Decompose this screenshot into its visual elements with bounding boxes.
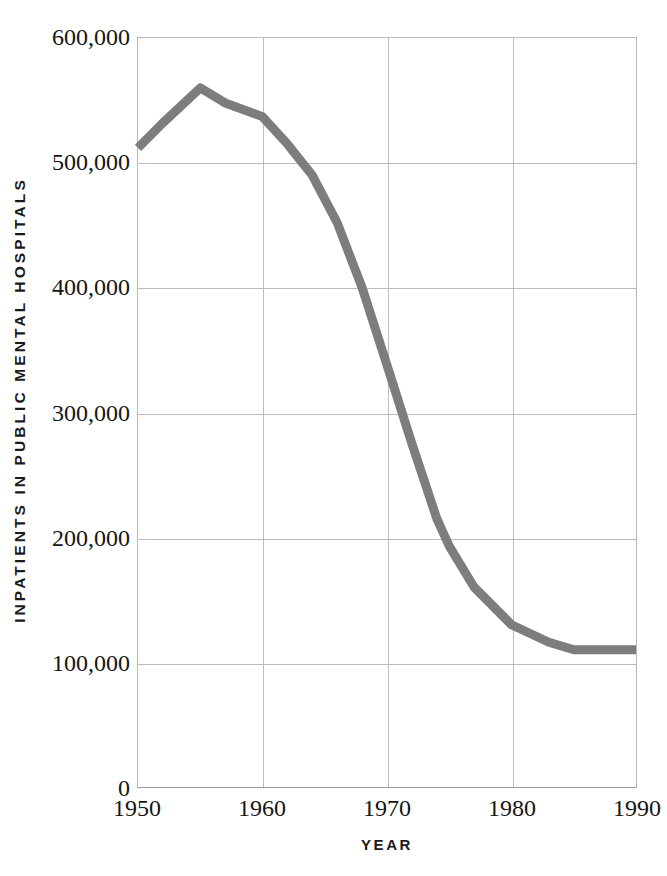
x-axis-tick-labels: 19501960197019801990 — [0, 795, 667, 835]
line-chart-figure: INPATIENTS IN PUBLIC MENTAL HOSPITALS 01… — [0, 0, 667, 876]
x-axis-tick-label: 1970 — [327, 795, 447, 823]
plot-area — [137, 37, 637, 788]
x-axis-tick-label: 1980 — [452, 795, 572, 823]
x-axis-tick-label: 1950 — [77, 795, 197, 823]
data-series-line — [138, 38, 636, 787]
y-axis-tick-label: 600,000 — [34, 25, 130, 49]
x-axis-tick-label: 1960 — [202, 795, 322, 823]
y-axis-tick-labels: 0100,000200,000300,000400,000500,000600,… — [30, 0, 130, 876]
x-axis-tick-label: 1990 — [577, 795, 667, 823]
x-axis-title: YEAR — [137, 836, 637, 853]
y-axis-tick-label: 200,000 — [34, 526, 130, 550]
data-polyline — [138, 88, 636, 650]
y-axis-tick-label: 100,000 — [34, 651, 130, 675]
y-axis-title-text: INPATIENTS IN PUBLIC MENTAL HOSPITALS — [11, 177, 29, 623]
y-axis-tick-label: 300,000 — [34, 401, 130, 425]
y-axis-tick-label: 400,000 — [34, 275, 130, 299]
y-axis-tick-label: 500,000 — [34, 150, 130, 174]
